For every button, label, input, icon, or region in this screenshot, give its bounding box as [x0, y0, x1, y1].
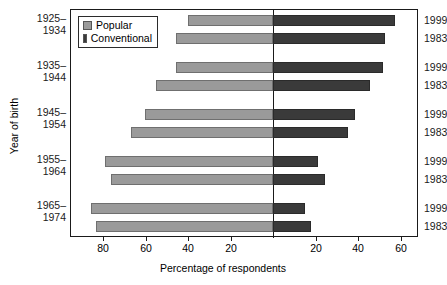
bar-popular-1965-1974-1999 — [91, 203, 273, 214]
y-tick-label-group-1-line2: 1944 — [18, 71, 66, 83]
bar-conventional-1955-1964-1999 — [273, 156, 318, 167]
right-label-9: 1983 — [424, 220, 447, 232]
bar-popular-1955-1964-1983 — [111, 174, 273, 185]
right-label-4: 1999 — [424, 108, 447, 120]
y-tick-label-group-3-line1: 1955– — [18, 153, 66, 165]
x-tick-left-60 — [146, 237, 147, 241]
right-label-1: 1983 — [424, 32, 447, 44]
x-tick-right-40 — [358, 237, 359, 241]
legend-label-conventional: Conventional — [91, 33, 152, 44]
legend-swatch-popular-icon — [83, 21, 92, 30]
bar-conventional-1945-1954-1983 — [273, 127, 348, 138]
right-label-7: 1983 — [424, 173, 447, 185]
x-tick-label-right-60: 60 — [388, 242, 414, 254]
y-tick-label-group-1: 1935– 1944 — [18, 59, 66, 83]
bar-popular-1945-1954-1999 — [145, 109, 273, 120]
right-label-0: 1999 — [424, 14, 447, 26]
y-tick-label-group-2-line2: 1954 — [18, 118, 66, 130]
x-tick-label-right-20: 20 — [303, 242, 329, 254]
y-tick-label-group-3-line2: 1964 — [18, 165, 66, 177]
x-tick-label-left-80: 80 — [90, 242, 116, 254]
y-tick-label-group-0: 1925– 1934 — [18, 12, 66, 36]
bar-popular-1935-1944-1983 — [156, 80, 273, 91]
bar-conventional-1965-1974-1999 — [273, 203, 305, 214]
x-tick-label-left-60: 60 — [133, 242, 159, 254]
right-label-8: 1999 — [424, 202, 447, 214]
bar-popular-1935-1944-1999 — [176, 62, 273, 73]
bar-popular-1945-1954-1983 — [131, 127, 273, 138]
legend-swatch-conventional-icon — [83, 34, 87, 43]
bar-conventional-1945-1954-1999 — [273, 109, 355, 120]
y-tick-label-group-0-line1: 1925– — [18, 12, 66, 24]
bar-conventional-1965-1974-1983 — [273, 221, 311, 232]
x-tick-left-40 — [188, 237, 189, 241]
y-tick-label-group-2-line1: 1945– — [18, 106, 66, 118]
legend: Popular Conventional — [78, 16, 158, 48]
right-label-3: 1983 — [424, 79, 447, 91]
bar-popular-1955-1964-1999 — [105, 156, 273, 167]
bar-conventional-1925-1934-1999 — [273, 15, 395, 26]
x-tick-label-left-20: 20 — [218, 242, 244, 254]
x-tick-right-20 — [316, 237, 317, 241]
y-tick-label-group-4-line2: 1974 — [18, 211, 66, 223]
y-tick-label-group-0-line2: 1934 — [18, 24, 66, 36]
x-tick-left-20 — [231, 237, 232, 241]
y-tick-label-group-3: 1955– 1964 — [18, 153, 66, 177]
x-tick-label-left-40: 40 — [175, 242, 201, 254]
bar-popular-1965-1974-1983 — [96, 221, 273, 232]
x-tick-right-60 — [401, 237, 402, 241]
x-tick-left-80 — [103, 237, 104, 241]
bar-popular-1925-1934-1983 — [176, 33, 273, 44]
right-label-5: 1983 — [424, 126, 447, 138]
legend-item-conventional: Conventional — [83, 32, 152, 45]
y-tick-label-group-1-line1: 1935– — [18, 59, 66, 71]
bar-conventional-1935-1944-1983 — [273, 80, 370, 91]
y-tick-label-group-4: 1965– 1974 — [18, 199, 66, 223]
y-tick-label-group-4-line1: 1965– — [18, 199, 66, 211]
right-label-6: 1999 — [424, 155, 447, 167]
bar-conventional-1925-1934-1983 — [273, 33, 385, 44]
bar-conventional-1935-1944-1999 — [273, 62, 383, 73]
legend-item-popular: Popular — [83, 19, 152, 32]
y-tick-label-group-2: 1945– 1954 — [18, 106, 66, 130]
bar-popular-1925-1934-1999 — [188, 15, 273, 26]
legend-label-popular: Popular — [96, 20, 132, 31]
x-tick-label-right-40: 40 — [345, 242, 371, 254]
x-axis-title: Percentage of respondents — [0, 262, 446, 274]
right-label-2: 1999 — [424, 61, 447, 73]
bar-conventional-1955-1964-1983 — [273, 174, 325, 185]
